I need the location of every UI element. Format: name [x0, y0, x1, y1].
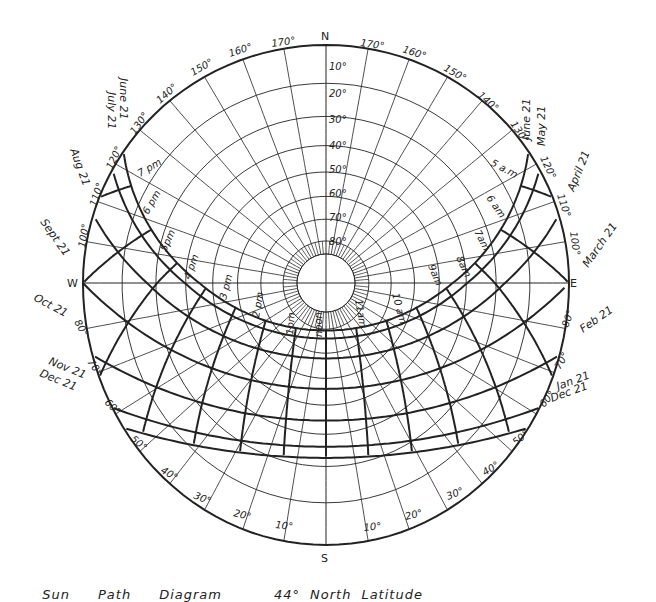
hour-label-6am: 6 am: [484, 193, 508, 220]
hour-line: [446, 288, 509, 432]
caption-word-north: North: [310, 587, 351, 602]
azimuth-label-w-10: 10°: [275, 519, 294, 532]
azimuth-label-w-100: 100°: [76, 223, 91, 249]
hour-line: [501, 230, 568, 282]
hour-label-7am: 7am: [472, 228, 492, 253]
altitude-label-10: 10°: [329, 61, 347, 72]
south-label: S: [321, 552, 328, 565]
hour-line: [284, 328, 296, 455]
azimuth-label-e-100: 100°: [568, 231, 582, 256]
azimuth-label-e-140: 140°: [476, 89, 501, 113]
hour-line: [143, 288, 206, 432]
diagram-caption: SunPathDiagram44°NorthLatitude: [32, 572, 451, 602]
east-label: E: [570, 277, 577, 290]
azimuth-spoke: [243, 296, 322, 529]
altitude-label-20: 20°: [329, 88, 347, 99]
altitude-label-60: 60°: [329, 188, 347, 199]
hour-line: [101, 186, 131, 197]
hour-label-1pm: 1pm: [284, 312, 297, 336]
azimuth-spoke: [284, 49, 324, 271]
west-label: W: [67, 277, 78, 290]
hour-line: [521, 186, 551, 197]
date-label-e-feb21: Feb 21: [577, 303, 615, 335]
altitude-label-80: 80°: [329, 236, 347, 247]
azimuth-label-w-40: 40°: [159, 464, 180, 483]
azimuth-spoke: [330, 296, 409, 529]
hour-label-7pm: 7 pm: [136, 156, 164, 178]
hour-label-4pm: 4 pm: [182, 253, 201, 281]
north-label: N: [321, 30, 329, 43]
azimuth-spoke: [336, 130, 512, 275]
hour-line: [356, 328, 368, 455]
hour-label-6pm: 6 pm: [140, 188, 162, 216]
hour-line: [100, 263, 177, 375]
altitude-label-50: 50°: [329, 164, 347, 175]
caption-word-diagram: Diagram: [159, 587, 222, 602]
azimuth-spoke: [243, 59, 322, 271]
date-label-e-march21: March 21: [580, 220, 620, 269]
date-label-e-may21: May 21: [535, 106, 548, 146]
hour-label-5pm: 5pm: [158, 228, 178, 253]
azimuth-label-e-170: 170°: [360, 37, 385, 51]
caption-word-path: Path: [98, 587, 131, 602]
azimuth-spoke: [140, 130, 316, 275]
azimuth-spoke: [170, 101, 318, 274]
hour-line: [240, 321, 266, 452]
azimuth-spoke: [334, 101, 482, 274]
azimuth-spoke: [87, 285, 314, 328]
hour-label-10am: 10 am: [390, 292, 409, 326]
hour-line: [475, 263, 552, 375]
azimuth-spoke: [339, 242, 566, 281]
date-label-e-june21: June 21: [520, 99, 533, 142]
azimuth-label-e-70: 70°: [552, 350, 570, 371]
azimuth-spoke: [87, 242, 314, 281]
azimuth-label-e-80: 80°: [560, 308, 576, 328]
date-label-w-july21: July 21: [105, 90, 118, 129]
azimuth-label-e-10: 10°: [363, 520, 382, 533]
hour-label-5am: 5 a.m: [489, 157, 520, 180]
caption-word-sun: Sun: [42, 587, 70, 602]
caption-latitude-degrees: 44°: [274, 587, 300, 602]
azimuth-label-w-50: 50°: [129, 433, 150, 453]
azimuth-label-e-20: 20°: [404, 507, 424, 522]
altitude-label-70: 70°: [329, 212, 347, 223]
azimuth-label-w-60: 60°: [103, 397, 123, 417]
hour-label-11am: 11am: [353, 298, 369, 328]
date-label-e-april21: April 21: [564, 149, 592, 194]
hour-label-2pm: 2 pm: [250, 291, 265, 318]
azimuth-spoke: [339, 285, 566, 328]
altitude-label-40: 40°: [329, 140, 347, 151]
date-label-w-sept21: Sept 21: [38, 216, 73, 258]
altitude-label-30: 30°: [329, 114, 347, 125]
hour-label-3pm: 3 pm: [217, 273, 234, 301]
hour-line: [84, 230, 151, 282]
date-label-w-oct21: Oct 21: [32, 291, 70, 320]
hour-label-9am: 9am: [426, 263, 445, 288]
azimuth-label-w-140: 140°: [154, 81, 179, 105]
hour-label-noon: noon: [313, 312, 324, 337]
caption-word-latitude: Latitude: [361, 587, 423, 602]
hour-line: [386, 321, 412, 452]
date-label-w-aug21: Aug 21: [67, 146, 93, 188]
azimuth-label-e-120: 120°: [538, 154, 558, 180]
